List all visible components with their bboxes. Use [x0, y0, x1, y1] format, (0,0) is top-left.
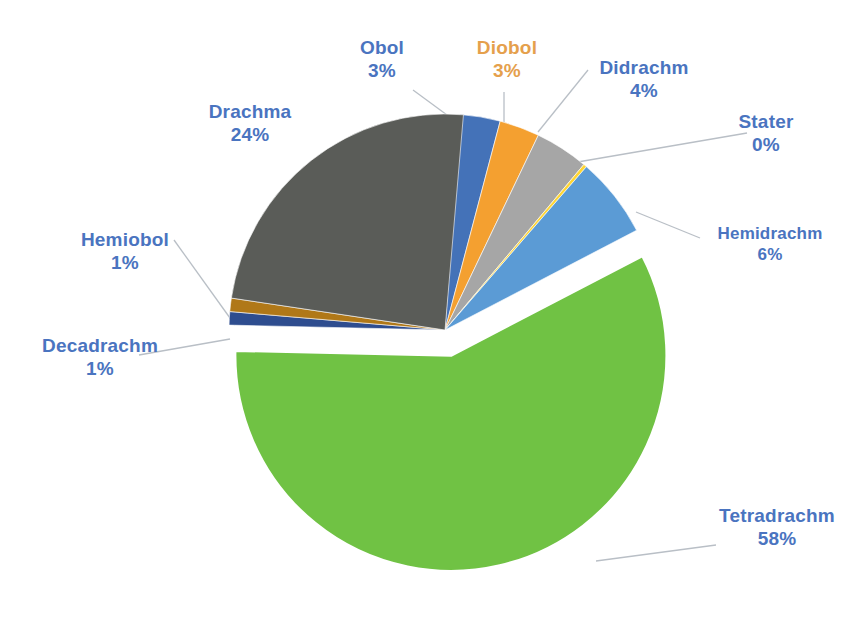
pie-label-obol-percent: 3%: [335, 59, 429, 82]
pie-label-hemidrachm-percent: 6%: [694, 245, 846, 266]
pie-label-decadrachm: Decadrachm 1%: [24, 334, 176, 380]
pie-label-hemiobol-name: Hemiobol: [62, 228, 188, 251]
pie-label-decadrachm-name: Decadrachm: [24, 334, 176, 357]
pie-label-stater-percent: 0%: [718, 133, 814, 156]
pie-label-diobol: Diobol 3%: [455, 36, 559, 82]
pie-label-didrachm-percent: 4%: [578, 79, 710, 102]
pie-label-obol: Obol 3%: [335, 36, 429, 82]
pie-label-tetradrachm-percent: 58%: [700, 527, 854, 550]
pie-label-diobol-name: Diobol: [455, 36, 559, 59]
pie-slice-drachma[interactable]: [231, 114, 463, 330]
pie-label-drachma-name: Drachma: [170, 100, 330, 123]
pie-label-hemiobol: Hemiobol 1%: [62, 228, 188, 274]
pie-label-drachma: Drachma 24%: [170, 100, 330, 146]
pie-label-drachma-percent: 24%: [170, 123, 330, 146]
pie-label-obol-name: Obol: [335, 36, 429, 59]
pie-label-hemidrachm: Hemidrachm 6%: [694, 224, 846, 265]
pie-label-tetradrachm-name: Tetradrachm: [700, 504, 854, 527]
pie-label-diobol-percent: 3%: [455, 59, 559, 82]
pie-label-stater-name: Stater: [718, 110, 814, 133]
pie-label-didrachm-name: Didrachm: [578, 56, 710, 79]
pie-label-stater: Stater 0%: [718, 110, 814, 156]
leader-line-hemidrachm: [636, 212, 700, 238]
pie-label-didrachm: Didrachm 4%: [578, 56, 710, 102]
pie-label-hemiobol-percent: 1%: [62, 251, 188, 274]
pie-chart-canvas: Drachma 24% Obol 3% Diobol 3% Didrachm 4…: [0, 0, 865, 629]
pie-slices: [229, 114, 667, 571]
pie-label-tetradrachm: Tetradrachm 58%: [700, 504, 854, 550]
leader-line-tetradrachm: [596, 545, 716, 561]
pie-label-hemidrachm-name: Hemidrachm: [694, 224, 846, 245]
pie-label-decadrachm-percent: 1%: [24, 357, 176, 380]
